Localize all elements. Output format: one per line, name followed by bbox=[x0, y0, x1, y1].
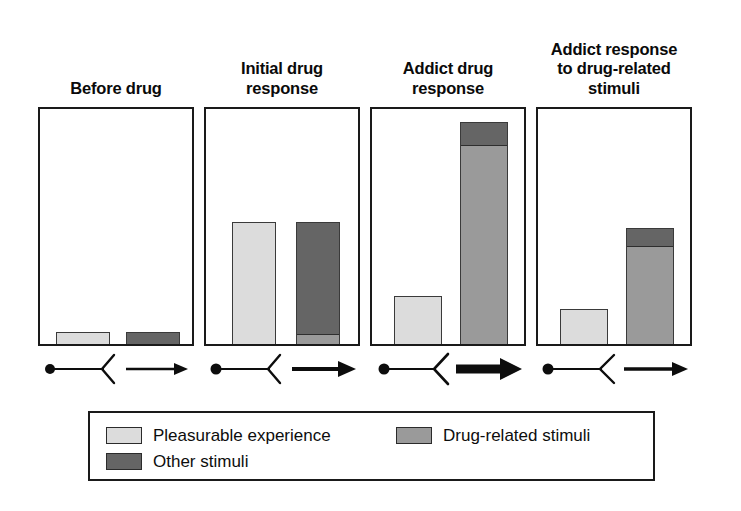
panel-addict-drug-response: Addict drug response bbox=[370, 107, 526, 346]
legend-label-other-stimuli: Other stimuli bbox=[153, 453, 248, 470]
arrow-diagram-initial-drug-response bbox=[204, 352, 360, 386]
legend: Pleasurable experience Drug-related stim… bbox=[88, 411, 655, 481]
arrow-medium-icon bbox=[204, 352, 360, 386]
plot-area-addict-drug-response bbox=[372, 109, 524, 344]
arrow-medium-icon bbox=[536, 352, 692, 386]
other-stimuli-bar bbox=[126, 332, 180, 344]
other-stimuli-bar bbox=[296, 222, 340, 344]
segment-other-stimuli bbox=[297, 223, 339, 334]
legend-swatch-pleasurable-experience bbox=[106, 427, 142, 444]
segment-other-stimuli bbox=[127, 333, 179, 344]
legend-label-drug-related-stimuli: Drug-related stimuli bbox=[443, 427, 590, 444]
legend-swatch-drug-related-stimuli bbox=[396, 427, 432, 444]
panel-addict-response-to-drug-related-stimuli: Addict response to drug-related stimuli bbox=[536, 107, 692, 346]
panel-initial-drug-response: Initial drug response bbox=[204, 107, 360, 346]
legend-item-pleasurable-experience: Pleasurable experience bbox=[106, 427, 396, 444]
segment-pleasurable-experience bbox=[57, 333, 109, 344]
panel-title-addict-drug-response: Addict drug response bbox=[362, 59, 534, 98]
arrow-diagram-addict-drug-response bbox=[370, 352, 526, 386]
drug-related-stimuli-bar bbox=[626, 228, 674, 344]
segment-drug-related-stimuli bbox=[461, 145, 507, 344]
legend-swatch-other-stimuli bbox=[106, 453, 142, 470]
segment-drug-related-stimuli bbox=[297, 334, 339, 344]
panel-title-initial-drug-response: Initial drug response bbox=[196, 59, 368, 98]
arrow-thick-icon bbox=[370, 352, 526, 386]
drug-related-stimuli-bar bbox=[460, 122, 508, 344]
figure-root: Before drug Initial drug response bbox=[0, 0, 741, 511]
pleasurable-experience-bar bbox=[232, 222, 276, 344]
arrow-thin-icon bbox=[38, 352, 194, 386]
legend-item-drug-related-stimuli: Drug-related stimuli bbox=[396, 427, 643, 444]
segment-pleasurable-experience bbox=[395, 297, 441, 344]
pleasurable-experience-bar bbox=[560, 309, 608, 344]
segment-drug-related-stimuli bbox=[627, 246, 673, 344]
segment-other-stimuli bbox=[461, 123, 507, 145]
pleasurable-experience-bar bbox=[56, 332, 110, 344]
panel-title-addict-response-to-drug-related-stimuli: Addict response to drug-related stimuli bbox=[528, 40, 700, 98]
segment-other-stimuli bbox=[627, 229, 673, 246]
plot-area-before-drug bbox=[40, 109, 192, 344]
panel-title-before-drug: Before drug bbox=[30, 79, 202, 98]
plot-area-initial-drug-response bbox=[206, 109, 358, 344]
segment-pleasurable-experience bbox=[233, 223, 275, 344]
legend-item-other-stimuli: Other stimuli bbox=[106, 453, 396, 470]
panel-before-drug: Before drug bbox=[38, 107, 194, 346]
legend-grid: Pleasurable experience Drug-related stim… bbox=[106, 422, 643, 474]
segment-pleasurable-experience bbox=[561, 310, 607, 344]
plot-area-addict-response-to-drug-related-stimuli bbox=[538, 109, 690, 344]
pleasurable-experience-bar bbox=[394, 296, 442, 344]
arrow-diagram-addict-response-to-drug-related-stimuli bbox=[536, 352, 692, 386]
legend-label-pleasurable-experience: Pleasurable experience bbox=[153, 427, 331, 444]
arrow-diagram-before-drug bbox=[38, 352, 194, 386]
